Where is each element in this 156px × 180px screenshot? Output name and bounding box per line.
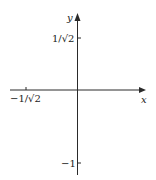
y-axis-arrow-icon [75,13,81,21]
x-axis-label: x [141,94,147,105]
y-axis [75,13,81,175]
tick-label-x-left: −1/√2 [10,93,41,104]
x-axis-arrow-icon [139,87,146,93]
coordinate-axes-figure: y x 1/√2 −1 −1/√2 [0,0,156,180]
y-axis-label: y [66,12,73,23]
tick-label-y-bottom: −1 [61,158,76,169]
tick-label-y-top: 1/√2 [52,33,74,44]
